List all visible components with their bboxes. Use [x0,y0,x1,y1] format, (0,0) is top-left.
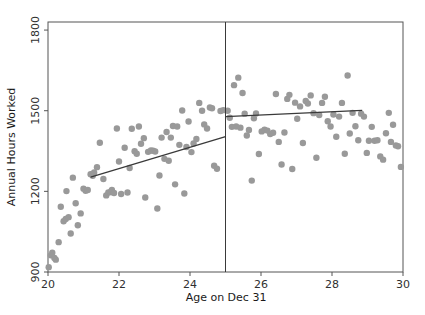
data-point [129,126,135,132]
data-point [352,123,358,129]
x-tick-label: 20 [41,278,55,291]
data-point [256,151,262,157]
data-point [94,164,100,170]
data-point [383,130,389,136]
data-point [193,136,199,142]
x-tick-label: 30 [396,278,410,291]
x-tick-label: 26 [254,278,268,291]
data-point [141,135,147,141]
data-point [124,189,130,195]
data-point [188,149,194,155]
scatter-plot: 202224262830 900120015001800 Age on Dec … [0,0,425,315]
data-point [100,176,106,182]
x-axis-title: Age on Dec 31 [186,291,267,304]
x-tick-label: 28 [325,278,339,291]
data-point [118,191,124,197]
data-point [134,151,140,157]
data-point [181,190,187,196]
data-point [339,100,345,106]
data-point [196,100,202,106]
data-point [176,142,182,148]
data-point [276,139,282,145]
data-point [121,145,127,151]
data-point [273,91,279,97]
data-point [313,155,319,161]
data-point [289,166,295,172]
y-tick-label: 1500 [29,97,42,125]
chart-figure: 202224262830 900120015001800 Age on Dec … [0,0,425,315]
data-point [398,164,404,170]
data-point [72,200,78,206]
data-point [58,203,64,209]
data-point [199,108,205,114]
data-point [46,264,52,270]
data-point [227,115,233,121]
data-point [168,134,174,140]
y-axis-title: Annual Hours Worked [5,88,18,207]
data-point [111,190,117,196]
data-point [214,166,220,172]
data-point [136,123,142,129]
data-point [300,140,306,146]
y-tick-label: 900 [29,262,42,283]
data-point [179,107,185,113]
data-point [386,110,392,116]
data-point [231,82,237,88]
data-point [327,123,333,129]
data-point [65,214,71,220]
data-point [185,118,191,124]
data-point [68,230,74,236]
data-point [114,125,120,131]
data-point [70,174,76,180]
data-point [63,188,69,194]
data-point [390,121,396,127]
y-tick-label: 1800 [29,16,42,44]
data-point [286,92,292,98]
data-point [55,239,61,245]
data-point [152,148,158,154]
data-point [364,150,370,156]
data-point [249,177,255,183]
data-point [204,125,210,131]
y-tick-label: 1200 [29,177,42,205]
x-tick-label: 24 [183,278,197,291]
data-point [209,105,215,111]
data-point [142,194,148,200]
data-point [163,129,169,135]
data-point [246,127,252,133]
data-point [374,137,380,143]
data-point [156,172,162,178]
data-point [347,130,353,136]
data-point [154,205,160,211]
data-point [344,72,350,78]
data-point [322,94,328,100]
data-point [85,187,91,193]
data-point [97,140,103,146]
data-point [237,124,243,130]
data-point [369,124,375,130]
data-point [166,158,172,164]
data-point [380,156,386,162]
data-point [174,123,180,129]
data-point [395,143,401,149]
data-point [294,116,300,122]
data-point [53,256,59,262]
data-point [366,138,372,144]
x-tick-label: 22 [112,278,126,291]
data-point [297,103,303,109]
data-point [239,90,245,96]
data-point [235,74,241,80]
data-point [342,151,348,157]
data-point [138,141,144,147]
data-point [172,181,178,187]
data-point [278,161,284,167]
data-point [333,134,339,140]
data-point [77,210,83,216]
data-point [319,100,325,106]
data-point [158,134,164,140]
data-point [336,113,342,119]
data-point [270,130,276,136]
data-point [308,92,314,98]
data-point [281,129,287,135]
data-point [305,100,311,106]
